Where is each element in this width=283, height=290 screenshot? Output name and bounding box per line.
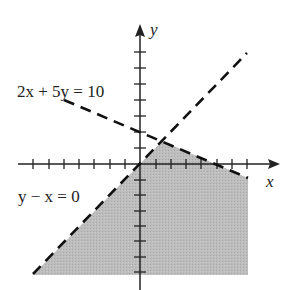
y-axis-label: y <box>148 20 158 39</box>
line-label-y-minus-x: y − x = 0 <box>18 187 80 206</box>
x-axis-label: x <box>265 172 274 191</box>
inequality-graph: y x 2x + 5y = 10 y − x = 0 <box>0 0 283 290</box>
line-label-2x-plus-5y: 2x + 5y = 10 <box>17 82 104 101</box>
